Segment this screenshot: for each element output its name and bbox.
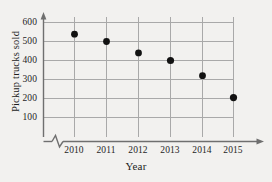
xtick-label-2014: 2014 bbox=[185, 145, 219, 155]
y-axis bbox=[41, 12, 47, 137]
vertical-gridlines bbox=[75, 17, 234, 137]
data-point-2015 bbox=[230, 94, 237, 101]
x-axis-title: Year bbox=[0, 160, 272, 172]
xtick-label-2015: 2015 bbox=[216, 145, 250, 155]
xtick-label-2013: 2013 bbox=[153, 145, 187, 155]
data-point-2013 bbox=[167, 57, 174, 64]
xtick-label-2011: 2011 bbox=[89, 145, 123, 155]
y-axis-arrow-icon bbox=[41, 12, 47, 20]
xtick-label-2012: 2012 bbox=[121, 145, 155, 155]
data-point-2011 bbox=[103, 38, 110, 45]
xtick-label-2010: 2010 bbox=[57, 145, 91, 155]
data-point-2012 bbox=[135, 50, 142, 57]
y-axis-title: Pickup trucks sold bbox=[10, 12, 21, 132]
data-point-2014 bbox=[199, 72, 206, 79]
data-point-2010 bbox=[71, 31, 78, 38]
x-axis-arrow-icon bbox=[257, 139, 265, 145]
chart-figure: 600 500 400 300 200 100 2010 2011 2012 2… bbox=[0, 0, 272, 182]
